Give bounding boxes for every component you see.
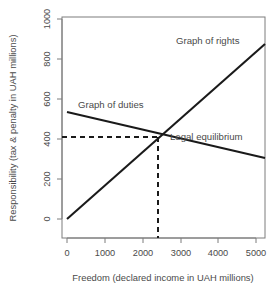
x-axis-title: Freedom (declared income in UAH millions… xyxy=(72,272,253,283)
x-tick-label-3000: 3000 xyxy=(171,248,191,258)
plot-panel-border xyxy=(62,17,265,238)
chart-canvas: 0 200 400 600 800 1000 Responsibility (t… xyxy=(0,0,279,293)
y-tick-label-400: 400 xyxy=(42,131,52,146)
y-tick-label-600: 600 xyxy=(42,91,52,106)
annotation-legal-equilibrium: Legal equilibrium xyxy=(170,131,243,142)
y-tick-label-200: 200 xyxy=(42,171,52,186)
y-tick-label-1000: 1000 xyxy=(42,9,52,29)
x-tick-label-4000: 4000 xyxy=(208,248,228,258)
y-axis-title: Responsibility (tax & penalty in UAH mil… xyxy=(7,34,18,221)
annotation-graph-of-rights: Graph of rights xyxy=(176,35,240,46)
y-tick-label-0: 0 xyxy=(42,216,52,221)
x-tick-label-0: 0 xyxy=(64,248,69,258)
x-tick-label-2000: 2000 xyxy=(133,248,153,258)
annotation-graph-of-duties: Graph of duties xyxy=(78,99,144,110)
y-axis: 0 200 400 600 800 1000 Responsibility (t… xyxy=(7,9,62,222)
x-tick-label-1000: 1000 xyxy=(95,248,115,258)
chart-figure: 0 200 400 600 800 1000 Responsibility (t… xyxy=(0,0,279,293)
y-tick-label-800: 800 xyxy=(42,51,52,66)
x-tick-label-5000: 5000 xyxy=(246,248,266,258)
x-axis: 0 1000 2000 3000 4000 5000 Freedom (decl… xyxy=(64,238,266,283)
